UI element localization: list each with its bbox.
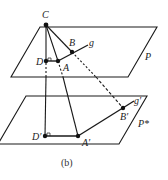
label-a: A: [62, 62, 70, 73]
point-d-prime: [43, 134, 47, 138]
ray-c-a: [46, 25, 58, 61]
point-b-prime: [121, 106, 125, 110]
label-a-prime: A′: [81, 137, 91, 148]
plane-p: [11, 27, 157, 77]
label-g-prime: g′: [134, 95, 142, 106]
ray-a-aprime: [63, 77, 78, 136]
label-g: g: [89, 37, 94, 48]
label-d-prime: D′: [31, 131, 42, 142]
point-a: [56, 59, 60, 63]
point-d: [44, 59, 48, 63]
ray-b-bprime: [96, 77, 123, 108]
label-plane-p: P: [144, 51, 151, 62]
ray-d-dprime: [45, 77, 46, 136]
label-plane-p-star: P*: [137, 118, 149, 129]
label-c: C: [42, 9, 49, 20]
point-c: [44, 23, 49, 28]
point-b: [70, 50, 74, 54]
label-b: B: [69, 37, 75, 48]
ray-b-bprime-hidden: [72, 52, 96, 77]
label-b-prime: B′: [120, 111, 129, 122]
projection-diagram: C D A B g P D′ A′ B′ g′ P* (b): [0, 0, 168, 180]
figure-caption: (b): [61, 157, 73, 169]
point-a-prime: [76, 134, 80, 138]
label-d: D: [35, 56, 44, 67]
